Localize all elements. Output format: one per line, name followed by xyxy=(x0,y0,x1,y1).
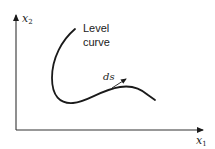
tangent-label: ds xyxy=(103,71,115,82)
x-axis-subscript: 1 xyxy=(202,140,206,148)
curve-label-line1: Level xyxy=(83,22,109,34)
level-curve-diagram: x2 x1 Level curve ds xyxy=(0,0,215,149)
y-axis-subscript: 2 xyxy=(28,18,32,26)
x-axis-label: x1 xyxy=(196,134,207,148)
curve-label-line2: curve xyxy=(83,36,110,48)
y-axis-label: x2 xyxy=(22,12,33,26)
